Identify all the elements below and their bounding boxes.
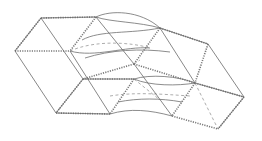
connectors	[70, 51, 172, 116]
lower-left-cell	[56, 79, 134, 114]
upper-channel	[70, 13, 170, 64]
upper-left-cell	[15, 17, 134, 113]
lower-right-cell	[172, 83, 244, 129]
isometric-cell-diagram	[0, 0, 262, 141]
lower-channel	[110, 76, 195, 116]
